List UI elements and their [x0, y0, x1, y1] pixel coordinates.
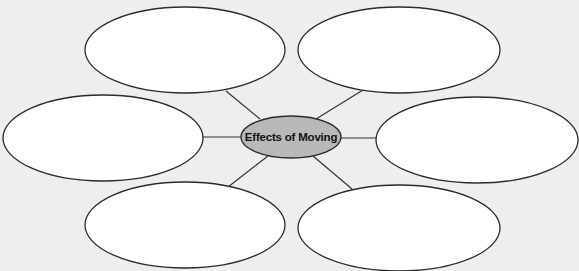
answer-bubble-middle-left[interactable]	[3, 95, 203, 181]
answer-bubble-top-right[interactable]	[298, 7, 500, 93]
answer-bubble-bottom-right[interactable]	[298, 185, 500, 271]
answer-bubble-top-left[interactable]	[85, 7, 285, 93]
connector-top-left	[226, 91, 260, 119]
center-label: Effects of Moving	[245, 131, 338, 143]
connector-bottom-left	[228, 156, 268, 187]
connector-top-right	[316, 90, 363, 119]
center-node: Effects of Moving	[241, 116, 341, 158]
effects-of-moving-web-diagram: Effects of Moving	[0, 0, 579, 271]
answer-bubble-middle-right[interactable]	[376, 97, 578, 183]
connector-bottom-right	[313, 156, 352, 189]
answer-bubble-bottom-left[interactable]	[85, 182, 285, 268]
